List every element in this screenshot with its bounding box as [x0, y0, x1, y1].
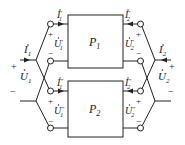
network-p2-label: P2	[88, 102, 100, 118]
label-u1: U1	[20, 70, 31, 85]
arrow-i2p	[127, 22, 133, 27]
p2-left-plus: +	[48, 96, 53, 106]
current-arrows	[24, 22, 167, 94]
label-u2-prime: U′2	[125, 38, 134, 51]
label-i1-prime: I′1	[56, 9, 62, 22]
p1-left-minus: −	[48, 48, 53, 58]
arrow-i2	[161, 58, 167, 63]
two-port-parallel-diagram: P1 P2	[0, 0, 185, 145]
p1-left-plus: +	[48, 29, 53, 39]
port2-minus: −	[168, 86, 174, 97]
label-u1-prime: U′1	[54, 38, 63, 51]
p1-right-plus: +	[136, 29, 141, 39]
label-i1-dprime: I″1	[56, 77, 63, 90]
port1-minus: −	[10, 86, 16, 97]
label-u2-dprime: U″2	[125, 105, 135, 118]
right-crossing-wires	[141, 24, 171, 128]
p2-right-minus: −	[136, 116, 141, 126]
port1-plus: +	[11, 61, 17, 72]
arrow-i1	[24, 58, 30, 63]
label-i2-prime: I′2	[124, 9, 130, 22]
port2-plus: +	[169, 61, 175, 72]
network-p1-label: P1	[88, 35, 100, 51]
arrow-i1p	[58, 22, 64, 27]
label-i2-dprime: I″2	[124, 77, 131, 90]
label-i1: I1	[23, 43, 31, 58]
p1-right-minus: −	[136, 48, 141, 58]
p2-left-minus: −	[48, 116, 53, 126]
label-u1-dprime: U″1	[54, 105, 64, 118]
p2-right-plus: +	[136, 96, 141, 106]
label-u2: U2	[158, 70, 170, 85]
